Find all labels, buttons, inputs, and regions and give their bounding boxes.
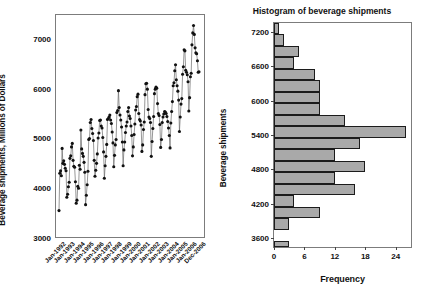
time-series-point (147, 108, 150, 111)
time-series-point (180, 97, 183, 100)
histogram-bar (274, 195, 294, 206)
time-series-point (78, 164, 81, 167)
time-series-point (94, 169, 97, 172)
histogram-bar (274, 218, 289, 229)
time-series-point (62, 159, 65, 162)
time-series-point (187, 110, 190, 113)
time-series-point (169, 121, 172, 124)
histogram-x-tickmark (274, 247, 275, 250)
histogram-bar (274, 149, 335, 160)
time-series-point (125, 120, 128, 123)
histogram-bar (274, 69, 315, 80)
time-series-point (172, 84, 175, 87)
histogram-bar (274, 207, 320, 218)
histogram-bar (274, 161, 365, 172)
time-series-point (190, 43, 193, 46)
time-series-point (111, 141, 114, 144)
time-series-y-tick-label: 3000 (33, 234, 55, 243)
time-series-point (129, 124, 132, 127)
time-series-point (104, 164, 107, 167)
time-series-svg (55, 14, 205, 238)
time-series-y-tick-label: 7000 (33, 34, 55, 43)
time-series-point (175, 78, 178, 81)
time-series-point (93, 175, 96, 178)
histogram-y-tickmark (271, 135, 274, 136)
time-series-point (122, 148, 125, 151)
histogram-x-axis-label: Frequency (273, 274, 412, 284)
time-series-point (189, 75, 192, 78)
time-series-point (66, 193, 69, 196)
time-series-point (100, 126, 103, 129)
histogram-y-tickmark (271, 32, 274, 33)
time-series-plot-area: 30004000500060007000 (55, 14, 205, 238)
time-series-point (77, 187, 80, 190)
time-series-point (75, 199, 78, 202)
time-series-point (88, 137, 91, 140)
time-series-point (122, 164, 125, 167)
time-series-point (135, 105, 138, 108)
time-series-point (187, 80, 190, 83)
histogram-bar (274, 46, 299, 57)
time-series-point (105, 143, 108, 146)
time-series-point (86, 170, 89, 173)
time-series-point (143, 93, 146, 96)
time-series-point (133, 133, 136, 136)
time-series-point (155, 87, 158, 90)
histogram-bar (274, 138, 360, 149)
histogram-panel: Histogram of beverage shipments Beverage… (215, 0, 429, 300)
time-series-point (165, 112, 168, 115)
time-series-point (178, 130, 181, 133)
time-series-point (168, 134, 171, 137)
time-series-point (161, 121, 164, 124)
time-series-point (172, 81, 175, 84)
histogram-x-tickmark (304, 247, 305, 250)
time-series-point (108, 114, 111, 117)
histogram-y-tickmark (271, 169, 274, 170)
time-series-point (101, 136, 104, 139)
histogram-y-tickmark (271, 238, 274, 239)
histogram-y-tickmark (271, 204, 274, 205)
time-series-point (176, 90, 179, 93)
time-series-point (153, 92, 156, 95)
time-series-point (86, 183, 89, 186)
histogram-bars-group (274, 23, 411, 247)
time-series-point (152, 115, 155, 118)
time-series-point (84, 203, 87, 206)
time-series-point (97, 131, 100, 134)
time-series-point (127, 106, 130, 109)
time-series-point (149, 121, 152, 124)
time-series-point (165, 115, 168, 118)
time-series-panel: Beverage shipments, Millions of Dollars … (0, 0, 215, 300)
time-series-point (75, 202, 78, 205)
time-series-point (123, 140, 126, 143)
histogram-bar (274, 241, 289, 247)
time-series-point (177, 99, 180, 102)
time-series-point (136, 93, 139, 96)
time-series-point (159, 146, 162, 149)
time-series-point (115, 138, 118, 141)
time-series-point (93, 159, 96, 162)
time-series-point (129, 117, 132, 120)
time-series-point (142, 128, 145, 131)
histogram-bar (274, 80, 320, 91)
time-series-y-tick-label: 6000 (33, 84, 55, 93)
time-series-point (80, 147, 83, 150)
time-series-point (112, 165, 115, 168)
histogram-bar (274, 115, 345, 126)
time-series-point (140, 150, 143, 153)
time-series-point (61, 147, 64, 150)
time-series-point (111, 130, 114, 133)
time-series-y-tick-label: 5000 (33, 134, 55, 143)
time-series-point (181, 73, 184, 76)
time-series-point (176, 84, 179, 87)
time-series-point (193, 33, 196, 36)
time-series-point (118, 114, 121, 117)
histogram-y-tickmark (271, 101, 274, 102)
time-series-point (171, 100, 174, 103)
time-series-point (143, 120, 146, 123)
time-series-point (197, 70, 200, 73)
time-series-point (63, 163, 66, 166)
time-series-point (161, 115, 164, 118)
time-series-point (95, 162, 98, 165)
time-series-point (182, 65, 185, 68)
